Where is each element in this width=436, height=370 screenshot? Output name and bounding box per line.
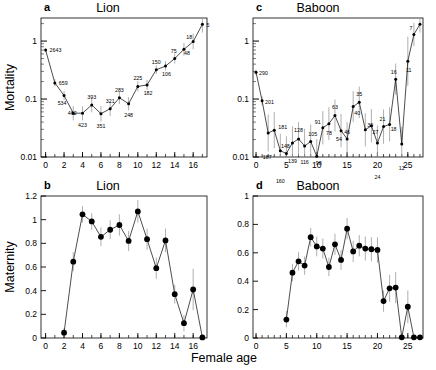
sample-size-label: 187 — [263, 154, 272, 160]
sample-size-label: 54 — [336, 136, 342, 142]
data-point — [116, 222, 122, 228]
sample-size-label: 5 — [206, 22, 209, 28]
data-point — [163, 237, 169, 243]
y-axis-label-mortality: Mortality — [3, 63, 17, 111]
data-point — [418, 23, 421, 26]
sample-size-label: 46 — [344, 129, 350, 135]
plot-frame — [41, 18, 207, 157]
data-point — [98, 234, 104, 240]
data-point — [314, 244, 320, 250]
data-point — [417, 334, 423, 340]
sample-size-label: 128 — [294, 127, 303, 133]
data-point — [356, 243, 362, 249]
data-point — [126, 238, 132, 244]
data-point — [164, 65, 167, 68]
data-point — [338, 257, 344, 263]
sample-size-label: 201 — [265, 99, 274, 105]
data-point — [303, 144, 306, 147]
y-tick-label: 1.2 — [25, 191, 37, 201]
sample-size-label: 16 — [391, 69, 397, 75]
sample-size-label: 12 — [399, 165, 405, 171]
data-point — [81, 112, 84, 115]
x-tick-label: 8 — [117, 160, 122, 170]
sample-size-label: 182 — [144, 90, 153, 96]
data-point — [332, 241, 338, 247]
data-point — [340, 129, 343, 132]
y-tick-label: 0.8 — [25, 238, 37, 248]
sample-size-label: 35 — [356, 91, 362, 97]
data-point — [309, 140, 312, 143]
x-tick-label: 12 — [152, 160, 162, 170]
sample-size-label: 534 — [58, 100, 67, 106]
sample-size-label: 160 — [276, 178, 285, 184]
y-tick-label: 0.01 — [20, 152, 37, 162]
x-tick-label: 0 — [43, 160, 48, 170]
sample-size-label: 75 — [171, 48, 177, 54]
sample-size-label: 105 — [308, 131, 317, 137]
series-line — [46, 24, 203, 113]
data-point — [53, 81, 56, 84]
data-point — [201, 23, 204, 26]
sample-size-label: 150 — [152, 59, 161, 65]
sample-size-label: 283 — [115, 87, 124, 93]
sample-size-label: 78 — [326, 130, 332, 136]
x-tick-label: 6 — [99, 160, 104, 170]
x-tick-label: 10 — [133, 341, 143, 351]
panel-a: 02468101214160.010.112643659534462423393… — [3, 1, 209, 170]
sample-size-label: 18 — [391, 126, 397, 132]
y-tick-label: 0.2 — [237, 305, 249, 315]
sample-size-label: 27 — [372, 129, 378, 135]
data-point — [290, 270, 296, 276]
sample-size-label: 7 — [409, 25, 412, 31]
panel-title-a: Lion — [96, 1, 120, 15]
y-tick-label: 1 — [244, 191, 249, 201]
sample-size-label: 11 — [406, 67, 412, 73]
x-tick-label: 0 — [254, 341, 259, 351]
y-tick-label: 1 — [32, 215, 37, 225]
sample-size-label: 248 — [124, 112, 133, 118]
sample-size-label: 225 — [133, 75, 142, 81]
data-point — [173, 57, 176, 60]
data-point — [127, 102, 130, 105]
data-point — [358, 101, 361, 104]
sample-size-label: 351 — [97, 123, 106, 129]
data-point — [90, 103, 93, 106]
x-tick-label: 12 — [152, 341, 162, 351]
y-tick-label: 0.1 — [237, 94, 249, 104]
x-tick-label: 25 — [403, 341, 413, 351]
data-point — [411, 334, 417, 340]
y-tick-label: 0.4 — [25, 286, 37, 296]
y-tick-label: 0 — [32, 333, 37, 343]
data-point — [412, 33, 415, 36]
x-tick-label: 8 — [117, 341, 122, 351]
data-point — [327, 122, 330, 125]
y-tick-label: 0.8 — [237, 219, 249, 229]
data-point — [399, 334, 405, 340]
x-tick-label: 14 — [170, 341, 180, 351]
y-tick-label: 1 — [32, 36, 37, 46]
data-point — [315, 155, 318, 158]
data-point — [283, 317, 289, 323]
y-axis-label-maternity: Maternity — [3, 241, 17, 293]
data-point — [376, 141, 379, 144]
x-tick-label: 20 — [373, 341, 383, 351]
data-point — [326, 264, 332, 270]
panel-title-d: Baboon — [296, 179, 339, 193]
data-point — [70, 259, 76, 265]
x-tick-label: 0 — [43, 341, 48, 351]
data-point — [321, 126, 324, 129]
x-tick-label: 14 — [170, 160, 180, 170]
data-point — [192, 40, 195, 43]
x-tick-label: 0 — [254, 160, 259, 170]
sample-size-label: 659 — [59, 80, 68, 86]
data-point — [333, 114, 336, 117]
x-tick-label: 5 — [284, 341, 289, 351]
data-point — [400, 143, 403, 146]
sample-size-label: 40 — [354, 110, 360, 116]
y-tick-label: 0.01 — [232, 152, 249, 162]
data-point — [381, 298, 387, 304]
sample-size-label: 30 — [367, 122, 373, 128]
x-tick-label: 4 — [80, 160, 85, 170]
sample-size-label: 290 — [259, 70, 268, 76]
data-point — [136, 85, 139, 88]
